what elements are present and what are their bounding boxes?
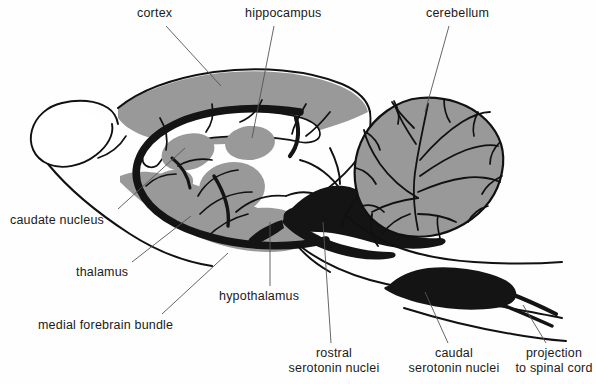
label-rostral-serotonin-nuclei: rostral serotonin nuclei [279,346,389,376]
label-thalamus: thalamus [76,265,128,280]
brain-diagram-figure: cortex hippocampus cerebellum caudate nu… [0,0,596,384]
label-caudate-nucleus: caudate nucleus [10,213,104,228]
label-hypothalamus: hypothalamus [219,289,299,304]
label-projection-to-spinal-cord: projection to spinal cord [512,346,596,376]
label-hippocampus: hippocampus [245,6,322,21]
label-cerebellum: cerebellum [426,6,489,21]
label-medial-forebrain-bundle: medial forebrain bundle [38,318,173,333]
label-cortex: cortex [137,6,172,21]
label-caudal-serotonin-nuclei: caudal serotonin nuclei [398,346,510,376]
